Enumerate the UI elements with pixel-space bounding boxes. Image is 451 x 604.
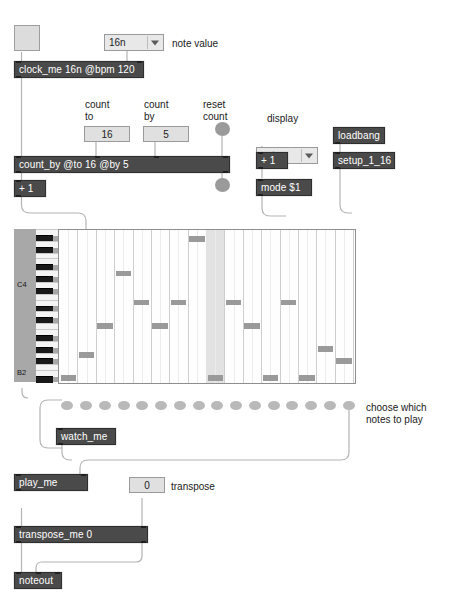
grid-column-centerline <box>87 230 88 383</box>
note-enable-dot[interactable] <box>155 401 167 410</box>
object-loadbang-label: loadbang <box>338 130 380 141</box>
menu-divider <box>147 36 148 49</box>
inlet <box>95 156 100 158</box>
comment-count-by: count by <box>144 99 168 123</box>
note-enable-dot[interactable] <box>61 401 73 410</box>
outlet <box>141 541 146 543</box>
inlet <box>16 180 21 182</box>
numbox-transpose-value: 0 <box>144 480 150 491</box>
note-enable-dot[interactable] <box>136 401 148 410</box>
note-enable-dot[interactable] <box>324 401 336 410</box>
grid-note[interactable] <box>208 375 223 381</box>
grid-note[interactable] <box>336 358 351 364</box>
grid-note[interactable] <box>61 375 76 381</box>
object-play-me[interactable]: play_me <box>14 474 88 491</box>
grid-column-centerline <box>68 230 69 383</box>
object-play-me-label: play_me <box>19 477 58 488</box>
note-enable-dot[interactable] <box>230 401 242 410</box>
grid-column-centerline <box>197 230 198 383</box>
numbox-count-by-value: 5 <box>163 129 169 140</box>
object-count-by[interactable]: count_by @to 16 @by 5 <box>14 156 230 173</box>
note-grid[interactable] <box>58 229 356 384</box>
object-noteout[interactable]: noteout <box>14 572 62 589</box>
note-enable-dots[interactable] <box>58 401 358 413</box>
note-enable-dot[interactable] <box>118 401 130 410</box>
grid-column-centerline <box>123 230 124 383</box>
grid-note[interactable] <box>244 323 259 329</box>
note-enable-dot[interactable] <box>80 401 92 410</box>
comment-choose-notes: choose which notes to play <box>366 402 427 426</box>
grid-column-centerline <box>307 230 308 383</box>
note-enable-dot[interactable] <box>268 401 280 410</box>
note-enable-dot[interactable] <box>305 401 317 410</box>
numbox-count-by[interactable]: 5 <box>143 126 189 142</box>
grid-note[interactable] <box>318 346 333 352</box>
object-transpose-me-label: transpose_me 0 <box>19 529 92 540</box>
grid-note[interactable] <box>97 323 112 329</box>
piano-roll[interactable]: C4 B2 <box>14 229 354 382</box>
grid-note[interactable] <box>134 300 149 306</box>
note-enable-dot[interactable] <box>193 401 205 410</box>
grid-note[interactable] <box>189 236 204 242</box>
object-transpose-me[interactable]: transpose_me 0 <box>14 526 148 543</box>
comment-note-value: note value <box>172 38 218 50</box>
comment-count-to: count to <box>85 99 109 123</box>
inlet <box>58 428 63 430</box>
numbox-count-to[interactable]: 16 <box>84 126 130 142</box>
object-plus-one-display[interactable]: + 1 <box>256 152 288 169</box>
note-enable-dot[interactable] <box>249 401 261 410</box>
object-setup[interactable]: setup_1_16 <box>333 152 395 169</box>
grid-note[interactable] <box>116 271 131 277</box>
inlet <box>154 156 159 158</box>
message-mode-label: mode $1 <box>261 182 301 193</box>
patcher-canvas: 16n note value clock_me 16n @bpm 120 cou… <box>0 0 451 604</box>
grid-column-centerline <box>270 230 271 383</box>
inlet <box>137 61 142 63</box>
message-mode[interactable]: mode $1 <box>256 179 312 196</box>
grid-column-centerline <box>160 230 161 383</box>
object-watch-me-label: watch_me <box>61 431 107 442</box>
outlet <box>223 171 228 173</box>
bang-count-output[interactable] <box>215 178 230 192</box>
chevron-down-icon <box>305 153 313 158</box>
grid-note[interactable] <box>79 352 94 358</box>
grid-column-centerline <box>252 230 253 383</box>
piano-key-black[interactable] <box>36 376 53 383</box>
grid-note[interactable] <box>171 300 186 306</box>
outlet <box>258 194 263 196</box>
note-enable-dot[interactable] <box>343 401 355 410</box>
bang-reset-count[interactable] <box>215 122 230 136</box>
inlet <box>16 572 21 574</box>
object-plus-one-left-label: + 1 <box>19 183 33 194</box>
inlet <box>81 474 86 476</box>
object-watch-me[interactable]: watch_me <box>56 428 116 445</box>
grid-note[interactable] <box>263 375 278 381</box>
outlet <box>335 142 340 144</box>
keyboard-keys[interactable] <box>36 229 58 382</box>
numbox-transpose[interactable]: 0 <box>129 477 165 493</box>
object-loadbang[interactable]: loadbang <box>333 127 385 144</box>
grid-note[interactable] <box>152 323 167 329</box>
grid-column-centerline <box>215 230 216 383</box>
object-clock-me[interactable]: clock_me 16n @bpm 120 <box>14 61 144 78</box>
outlet <box>16 195 21 197</box>
inlet <box>16 156 21 158</box>
note-enable-dot[interactable] <box>286 401 298 410</box>
inlet <box>16 61 21 63</box>
grid-note[interactable] <box>226 300 241 306</box>
object-plus-one-left[interactable]: + 1 <box>14 180 46 197</box>
note-enable-dot[interactable] <box>174 401 186 410</box>
grid-note[interactable] <box>299 375 314 381</box>
grid-column-centerline <box>325 230 326 383</box>
toggle-button[interactable] <box>14 25 40 51</box>
note-enable-dot[interactable] <box>211 401 223 410</box>
outlet <box>335 167 340 169</box>
inlet <box>16 526 21 528</box>
note-value-menu[interactable]: 16n <box>104 34 164 51</box>
comment-reset-count: reset count <box>203 99 227 123</box>
key-label-high: C4 <box>17 281 27 289</box>
outlet <box>16 541 21 543</box>
outlet <box>58 443 63 445</box>
note-enable-dot[interactable] <box>99 401 111 410</box>
grid-note[interactable] <box>281 300 296 306</box>
